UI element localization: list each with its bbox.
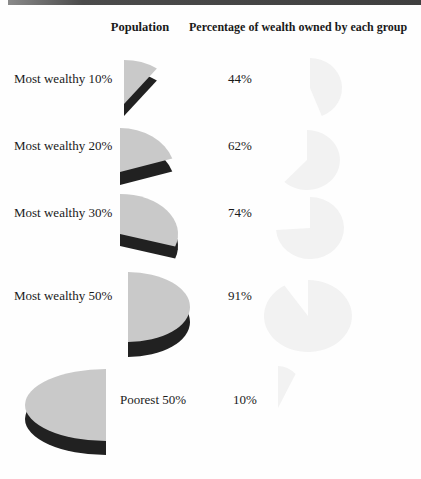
wealth-pie-watermark-2 [276, 197, 344, 259]
wealth-value-most-wealthy-50: 91% [228, 288, 252, 304]
wealth-pie-watermark-4 [278, 366, 296, 408]
chart-page: Population Percentage of wealth owned by… [0, 0, 421, 479]
population-pie-0 [124, 60, 157, 116]
population-pie-2 [120, 194, 178, 258]
wealth-value-most-wealthy-20: 62% [228, 138, 252, 154]
wealth-pie-watermark-0 [310, 58, 342, 116]
row-label-most-wealthy-20: Most wealthy 20% [14, 138, 112, 154]
top-accent-bar [8, 0, 421, 5]
row-label-most-wealthy-30: Most wealthy 30% [14, 205, 112, 221]
wealth-pie-watermark-3 [264, 280, 352, 352]
population-pie-1 [120, 128, 172, 185]
column-header-wealth: Percentage of wealth owned by each group [189, 20, 407, 35]
row-label-poorest-50: Poorest 50% [120, 392, 186, 408]
wealth-value-most-wealthy-10: 44% [228, 71, 252, 87]
wealth-pie-watermark-1 [284, 130, 340, 190]
population-pie-4 [25, 369, 106, 455]
row-label-most-wealthy-10: Most wealthy 10% [14, 71, 112, 87]
column-header-population: Population [88, 20, 192, 35]
population-pie-3 [128, 272, 190, 357]
wealth-value-poorest-50: 10% [233, 392, 257, 408]
row-label-most-wealthy-50: Most wealthy 50% [14, 288, 112, 304]
wealth-value-most-wealthy-30: 74% [228, 205, 252, 221]
